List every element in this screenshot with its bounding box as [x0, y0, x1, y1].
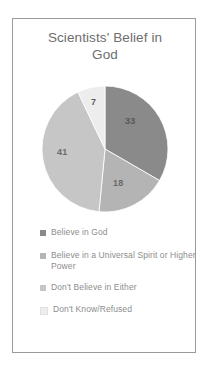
legend-item-label: Believe in a Universal Spirit or Higher … [51, 250, 200, 273]
legend-item-label: Don't Know/Refused [53, 304, 132, 316]
legend-swatch-icon [40, 285, 46, 291]
slice-label-dont-know: 7 [91, 97, 96, 107]
slice-label-dont-believe: 41 [57, 147, 67, 157]
legend-item-universal-spirit[interactable]: Believe in a Universal Spirit or Higher … [40, 250, 200, 273]
slice-label-believe-in-god: 33 [125, 116, 135, 126]
pie-chart: 33 18 41 7 [41, 85, 169, 213]
legend-item-believe-in-god[interactable]: Believe in God [40, 227, 200, 239]
legend-swatch-icon [40, 230, 46, 236]
legend-item-dont-believe[interactable]: Don't Believe in Either [40, 282, 200, 294]
chart-title-line-1: Scientists' Belief in [27, 29, 183, 46]
legend-item-dont-know[interactable]: Don't Know/Refused [40, 304, 200, 316]
chart-title: Scientists' Belief in God [27, 29, 183, 63]
legend-item-label: Believe in God [51, 227, 108, 239]
legend-item-label: Don't Believe in Either [51, 282, 137, 294]
chart-canvas: Scientists' Belief in God 33 18 41 7 Bel… [0, 0, 211, 373]
legend-swatch-icon [40, 253, 46, 259]
chart-frame: Scientists' Belief in God 33 18 41 7 Bel… [12, 18, 196, 353]
chart-legend: Believe in God Believe in a Universal Sp… [40, 227, 200, 327]
chart-title-line-2: God [27, 46, 183, 63]
legend-swatch-icon [40, 307, 48, 315]
slice-label-universal-spirit: 18 [113, 178, 123, 188]
